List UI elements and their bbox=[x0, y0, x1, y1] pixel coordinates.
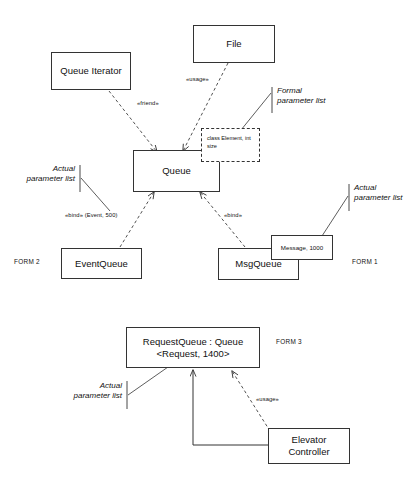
request-queue-line2: <Request, 1400> bbox=[143, 348, 243, 360]
note-formal-line1: Formal bbox=[277, 86, 302, 95]
note-formal-line2: parameter list bbox=[277, 96, 325, 105]
note-actual-bottom-line1: Actual bbox=[100, 381, 122, 390]
note-actual-parameter-list-right: Actual parameter list bbox=[354, 183, 402, 204]
form-tag-form1: FORM 1 bbox=[352, 258, 378, 265]
stereotype-label-bind-msg: «bind» bbox=[224, 212, 242, 218]
class-box-event-queue[interactable]: EventQueue bbox=[61, 248, 142, 279]
note-formal-parameter-list: Formal parameter list bbox=[277, 86, 325, 107]
elevator-controller-line2: Controller bbox=[288, 446, 329, 458]
class-box-request-queue[interactable]: RequestQueue : Queue <Request, 1400> bbox=[126, 327, 260, 368]
note-actual-right-line2: parameter list bbox=[354, 193, 402, 202]
leader-formal-parameter-list bbox=[241, 93, 271, 130]
class-box-message-binding[interactable]: Message, 1000 bbox=[271, 235, 333, 260]
note-actual-bottom-line2: parameter list bbox=[74, 391, 122, 400]
class-box-queue-iterator[interactable]: Queue Iterator bbox=[51, 52, 131, 90]
dependency-bind-msg bbox=[200, 192, 245, 247]
stereotype-label-bind-event: «bind» (Event, 500) bbox=[65, 212, 118, 218]
elevator-controller-line1: Elevator bbox=[288, 434, 329, 446]
leader-actual-left bbox=[81, 178, 110, 211]
dependency-bind-event bbox=[120, 192, 154, 247]
note-actual-left-line1: Actual bbox=[53, 164, 75, 173]
note-actual-parameter-list-bottom: Actual parameter list bbox=[45, 381, 122, 402]
note-actual-parameter-list-left: Actual parameter list bbox=[0, 164, 75, 185]
class-label-message-binding: Message, 1000 bbox=[281, 244, 323, 252]
note-actual-right-line1: Actual bbox=[354, 183, 376, 192]
class-label-queue: Queue bbox=[162, 165, 191, 177]
class-label-queue-iterator: Queue Iterator bbox=[60, 65, 121, 77]
class-label-elevator-controller: Elevator Controller bbox=[288, 434, 329, 458]
form-tag-form3: FORM 3 bbox=[276, 338, 302, 345]
uml-diagram-canvas: Queue : «friend» dashed dependency --> Q… bbox=[0, 0, 419, 482]
form-tag-form2: FORM 2 bbox=[14, 258, 40, 265]
class-label-event-queue: EventQueue bbox=[75, 258, 128, 270]
class-label-request-queue: RequestQueue : Queue <Request, 1400> bbox=[143, 336, 243, 360]
association-elevator-requestqueue bbox=[193, 370, 268, 445]
class-label-file: File bbox=[226, 38, 241, 50]
stereotype-label-friend: «friend» bbox=[137, 100, 159, 106]
stereotype-label-usage-bottom: «usage» bbox=[256, 396, 279, 402]
formal-parameter-box[interactable]: class Element, int size bbox=[201, 128, 260, 162]
leader-actual-right bbox=[322, 196, 348, 236]
class-box-file[interactable]: File bbox=[193, 25, 275, 63]
request-queue-line1: RequestQueue : Queue bbox=[143, 336, 243, 348]
note-actual-left-line2: parameter list bbox=[27, 174, 75, 183]
formal-parameter-line1: class Element, bbox=[207, 135, 243, 141]
class-box-elevator-controller[interactable]: Elevator Controller bbox=[268, 428, 350, 464]
stereotype-label-usage-top: «usage» bbox=[186, 76, 209, 82]
